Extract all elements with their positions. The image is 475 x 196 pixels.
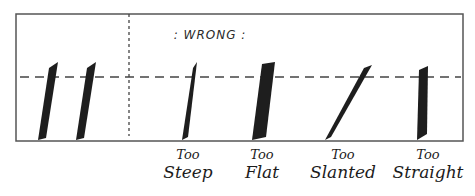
caption-line2: Slanted [303,164,383,181]
caption-line2: Flat [222,164,302,181]
too-steep-stroke [182,62,197,140]
too-slanted-stroke [325,65,372,140]
caption-line1: Too [303,148,383,161]
caption-line1: Too [222,148,302,161]
too-flat-stroke [252,62,275,140]
caption-too-slanted: Too Slanted [303,148,383,181]
caption-line1: Too [148,148,228,161]
correct-stroke-2 [76,62,96,140]
correct-stroke-1 [38,62,58,140]
caption-too-flat: Too Flat [222,148,302,181]
caption-line2: Steep [148,164,228,181]
caption-line1: Too [388,148,468,161]
wrong-section-label: : WRONG : [170,28,250,42]
caption-too-steep: Too Steep [148,148,228,181]
caption-line2: Straight [388,164,468,181]
caption-too-straight: Too Straight [388,148,468,181]
